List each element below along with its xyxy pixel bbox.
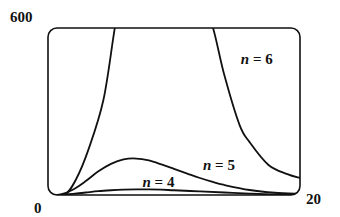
series-label-n4: n = 4 <box>143 174 175 190</box>
chart: 600 0 20 n = 4n = 5n = 6 <box>0 0 340 217</box>
series-line-n6 <box>48 0 300 196</box>
y-tick-600: 600 <box>10 9 33 25</box>
x-tick-0: 0 <box>34 200 42 216</box>
series-label-n6: n = 6 <box>241 51 273 67</box>
x-tick-20: 20 <box>306 191 321 207</box>
series-label-n5: n = 5 <box>203 157 235 173</box>
